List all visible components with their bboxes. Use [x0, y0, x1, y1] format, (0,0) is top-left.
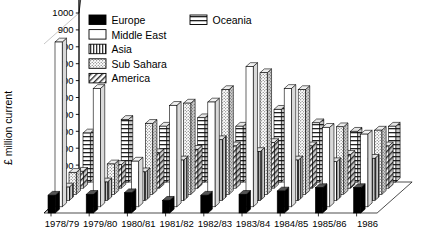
legend-item-middle-east[interactable]: Middle East	[89, 29, 166, 41]
bar-3d	[246, 63, 258, 207]
legend-label: Sub Sahara	[112, 58, 168, 70]
bar-3d	[48, 191, 60, 213]
x-tick-label: 1978/79	[45, 218, 79, 229]
legend-label: America	[112, 72, 151, 84]
legend-item-europe[interactable]: Europe	[89, 14, 146, 26]
bar-3d	[124, 189, 136, 213]
y-tick-label: 1000	[52, 7, 73, 18]
bar-3d	[86, 191, 98, 213]
legend-swatch	[89, 30, 106, 39]
x-tick-label: 1982/83	[198, 218, 232, 229]
bar-3d	[208, 98, 220, 207]
bar-3d	[170, 102, 182, 207]
legend-item-sub-sahara[interactable]: Sub Sahara	[89, 58, 167, 70]
legend-label: Europe	[112, 14, 146, 26]
y-axis-title: £ million current	[2, 91, 14, 165]
bar-3d	[93, 85, 105, 207]
bar-3d	[239, 191, 251, 213]
x-tick-label: 1984/85	[274, 218, 308, 229]
bar-chart-3d: 1002003004005006007008009001000£ million…	[0, 0, 442, 238]
legend-item-america[interactable]: America	[89, 72, 150, 84]
legend-swatch	[89, 15, 106, 25]
legend-item-asia[interactable]: Asia	[89, 43, 132, 55]
x-tick-label: 1985/86	[312, 218, 346, 229]
x-tick-label: 1980/81	[121, 218, 155, 229]
bar-3d	[277, 187, 289, 213]
legend-label: Middle East	[112, 29, 167, 41]
bar-3d	[354, 184, 366, 213]
legend-swatch	[89, 59, 106, 69]
legend-swatch	[89, 44, 106, 54]
bar-3d	[201, 191, 213, 213]
legend-label: Asia	[112, 43, 133, 55]
chart-legend: EuropeMiddle EastAsiaSub SaharaAmericaOc…	[89, 14, 252, 84]
legend-item-oceania[interactable]: Oceania	[190, 14, 252, 26]
bar-3d	[163, 196, 175, 213]
bar-3d	[315, 184, 327, 213]
chart-container: 1002003004005006007008009001000£ million…	[0, 0, 442, 238]
legend-swatch	[190, 15, 207, 25]
bar-3d	[55, 38, 67, 207]
x-tick-label: 1979/80	[83, 218, 117, 229]
x-tick-label: 1983/84	[236, 218, 270, 229]
x-tick-label: 1981/82	[159, 218, 193, 229]
x-axis: 1978/791979/801980/811981/821982/831983/…	[45, 213, 378, 229]
legend-label: Oceania	[213, 14, 252, 26]
x-tick-label: 1986	[357, 218, 378, 229]
legend-swatch	[89, 73, 106, 83]
